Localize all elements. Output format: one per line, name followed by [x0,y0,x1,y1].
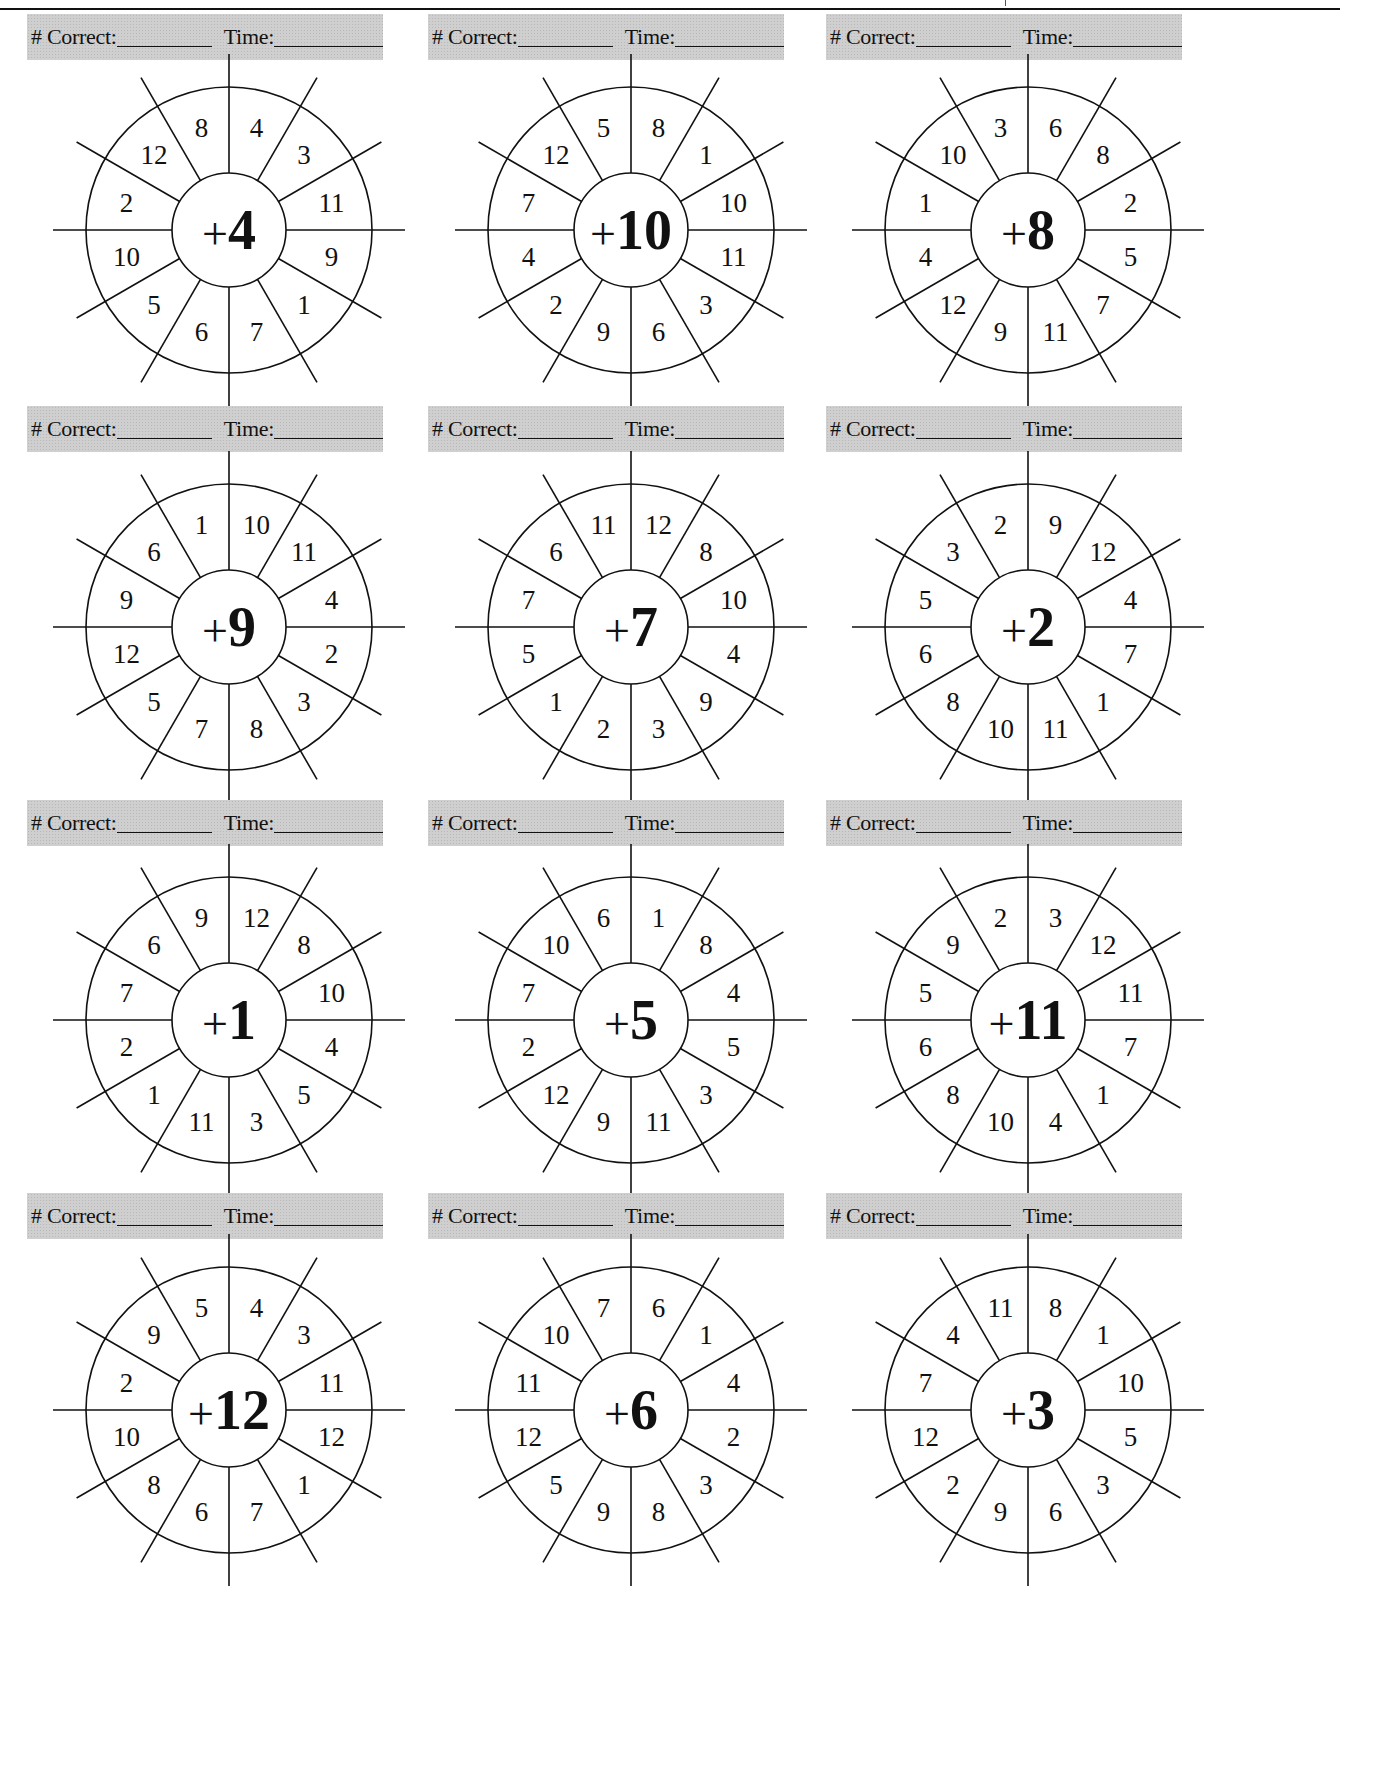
wheel-number: 11 [720,244,746,271]
wheel-number: 7 [522,979,536,1006]
wheel-number: 7 [195,716,209,743]
time-field[interactable] [675,814,784,833]
addend-value: 1 [228,989,256,1051]
time-field[interactable] [1073,814,1182,833]
correct-count-field[interactable] [117,28,212,47]
correct-label: # Correct: [432,24,518,50]
addend-value: 11 [1015,989,1068,1051]
wheel-number: 4 [1049,1109,1063,1136]
wheel-number: 3 [297,142,311,169]
wheel-number: 10 [318,979,345,1006]
wheel-number: 4 [946,1322,960,1349]
time-field[interactable] [675,1207,784,1226]
wheel-number: 12 [912,1424,939,1451]
wheel-number: 10 [1117,1369,1144,1396]
addition-wheel: 912471111086532+2 [848,447,1208,807]
wheel-number: 4 [727,1369,741,1396]
wheel-number: 10 [720,189,747,216]
addend-value: 2 [1027,596,1055,658]
time-field[interactable] [675,420,784,439]
time-label: Time: [1023,24,1073,50]
wheel-number: 2 [325,641,339,668]
wheel-number: 9 [994,1499,1008,1526]
wheel-number: 10 [940,142,967,169]
center-addend-label: +12 [188,1382,270,1438]
wheel-number: 10 [720,586,747,613]
wheel-number: 12 [543,142,570,169]
score-header-bar: # Correct:Time: [27,406,383,452]
wheel-number: 9 [994,319,1008,346]
wheel-number: 1 [652,904,666,931]
wheel-number: 10 [987,1109,1014,1136]
wheel-number: 5 [597,114,611,141]
center-addend-label: +6 [604,1382,658,1438]
time-field[interactable] [274,1207,383,1226]
wheel-number: 2 [1124,189,1138,216]
correct-count-field[interactable] [916,1207,1011,1226]
addition-wheel: 431191765102128+4 [49,50,409,410]
wheel-number: 5 [147,689,161,716]
wheel-number: 9 [120,586,134,613]
correct-count-field[interactable] [518,1207,613,1226]
time-field[interactable] [274,420,383,439]
wheel-number: 7 [597,1294,611,1321]
time-field[interactable] [1073,1207,1182,1226]
addition-wheel: 184531191227106+5 [451,840,811,1200]
correct-count-field[interactable] [518,814,613,833]
time-field[interactable] [1073,28,1182,47]
correct-label: # Correct: [432,416,518,442]
wheel-number: 12 [940,292,967,319]
wheel-number: 2 [597,716,611,743]
wheel-number: 4 [250,1294,264,1321]
correct-count-field[interactable] [518,420,613,439]
wheel-number: 1 [1096,1082,1110,1109]
correct-label: # Correct: [31,810,117,836]
wheel-number: 5 [919,586,933,613]
wheel-number: 12 [1090,539,1117,566]
correct-count-field[interactable] [916,420,1011,439]
wheel-number: 9 [597,319,611,346]
center-addend-label: +8 [1001,202,1055,258]
correct-label: # Correct: [31,416,117,442]
addend-value: 3 [1027,1379,1055,1441]
time-field[interactable] [274,814,383,833]
top-rule [0,8,1340,10]
wheel-number: 1 [147,1082,161,1109]
wheel-number: 4 [727,641,741,668]
wheel-number: 3 [1049,904,1063,931]
addend-value: 9 [228,596,256,658]
time-field[interactable] [274,28,383,47]
wheel-number: 6 [919,641,933,668]
time-field[interactable] [1073,420,1182,439]
wheel-number: 5 [1124,244,1138,271]
wheel-number: 12 [318,1424,345,1451]
wheel-number: 11 [189,1109,215,1136]
wheel-number: 9 [946,932,960,959]
correct-count-field[interactable] [117,814,212,833]
correct-count-field[interactable] [117,1207,212,1226]
wheel-number: 4 [1124,586,1138,613]
wheel-number: 8 [1049,1294,1063,1321]
center-addend-label: +3 [1001,1382,1055,1438]
wheel-number: 11 [1117,979,1143,1006]
wheel-number: 7 [919,1369,933,1396]
wheel-number: 11 [516,1369,542,1396]
wheel-number: 2 [727,1424,741,1451]
wheel-number: 5 [727,1034,741,1061]
wheel-number: 7 [1096,292,1110,319]
wheel-number: 5 [1124,1424,1138,1451]
wheel-number: 1 [1096,689,1110,716]
wheel-number: 3 [297,689,311,716]
addition-wheel: 312117141086592+11 [848,840,1208,1200]
correct-count-field[interactable] [117,420,212,439]
wheel-number: 10 [243,511,270,538]
correct-count-field[interactable] [916,28,1011,47]
wheel-number: 11 [318,189,344,216]
wheel-number: 8 [699,539,713,566]
wheel-number: 11 [645,1109,671,1136]
wheel-number: 6 [549,539,563,566]
time-field[interactable] [675,28,784,47]
correct-count-field[interactable] [518,28,613,47]
correct-count-field[interactable] [916,814,1011,833]
wheel-number: 11 [591,511,617,538]
